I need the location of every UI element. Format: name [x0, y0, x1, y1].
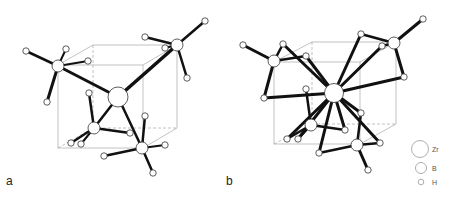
b-atom [136, 142, 148, 154]
panel-label-a: a [6, 174, 13, 188]
zr-legend-icon [412, 141, 429, 158]
legend: Zr B H [412, 141, 440, 187]
b-atom [52, 60, 64, 72]
panel-label-b: b [226, 174, 233, 188]
h-legend-icon [418, 179, 424, 185]
panel-b-structure [240, 16, 426, 173]
b-atom [268, 55, 280, 67]
zr-atom [108, 87, 128, 107]
panel-a-structure [23, 18, 208, 176]
b-atom [388, 37, 400, 49]
molecular-structure-figure: Zr B H [0, 0, 449, 200]
zr-atom [325, 84, 344, 103]
b-atom [305, 119, 317, 131]
legend-label-zr: Zr [432, 146, 439, 153]
b-atom [351, 139, 363, 151]
legend-label-h: H [432, 179, 437, 186]
b-legend-icon [416, 163, 427, 174]
legend-label-b: B [432, 165, 437, 172]
b-atom [88, 122, 100, 134]
b-atom [171, 39, 183, 51]
